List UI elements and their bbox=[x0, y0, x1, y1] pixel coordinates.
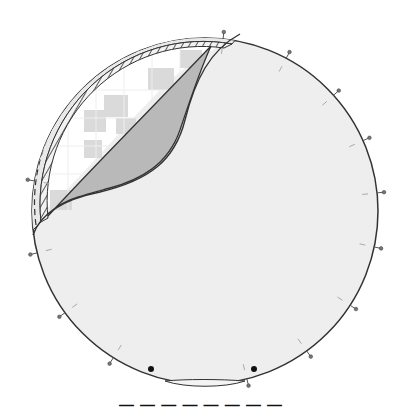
peeled-sheet-diagram bbox=[0, 0, 402, 407]
inner-tick bbox=[362, 194, 368, 195]
pin-head-icon bbox=[288, 50, 292, 54]
pin-head-icon bbox=[58, 315, 62, 319]
pin-head-icon bbox=[247, 384, 251, 388]
pin-head-icon bbox=[309, 355, 313, 359]
marker-dot-right bbox=[251, 366, 257, 372]
pin-head-icon bbox=[26, 178, 30, 182]
pin-head-icon bbox=[337, 89, 341, 93]
pin-head-icon bbox=[354, 307, 358, 311]
pin-head-icon bbox=[382, 190, 386, 194]
figure-caption: — — — — — — — — bbox=[0, 396, 402, 407]
pin-head-icon bbox=[368, 136, 372, 140]
pin-head-icon bbox=[108, 362, 112, 366]
pin-head-icon bbox=[29, 253, 33, 257]
marker-dot-left bbox=[148, 366, 154, 372]
inner-tick bbox=[222, 48, 223, 54]
pin-head-icon bbox=[222, 30, 226, 34]
pin-head-icon bbox=[379, 247, 383, 251]
bottom-lens bbox=[165, 380, 245, 387]
